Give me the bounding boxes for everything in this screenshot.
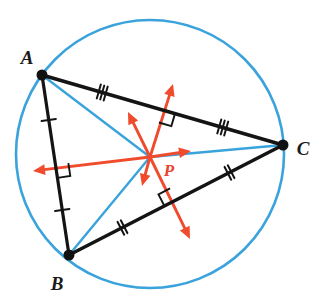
bisector-AB-ray-long-arrowhead [33, 164, 46, 175]
bisector-AB-ray-short [150, 147, 191, 158]
bisector-BC-ray-short-arrowhead [140, 173, 150, 186]
right-angle-AB [57, 163, 70, 178]
bisector-AB-ray-long [33, 157, 150, 175]
vertex-dot-B [64, 250, 75, 261]
bisector-AC-ray-long [150, 84, 175, 157]
vertex-label-B: B [50, 273, 64, 294]
geometry-figure: ABCP Circumcenter P of triangle ABC [0, 0, 331, 301]
side-AB-tick-half2-1 [55, 209, 69, 211]
side-AB [42, 75, 69, 255]
vertex-dot-A [37, 70, 48, 81]
vertex-label-A: A [20, 47, 34, 68]
geometry-canvas: ABCP [0, 0, 331, 301]
vertex-label-C: C [297, 138, 310, 159]
center-label-P: P [163, 161, 175, 180]
bisector-AC-ray-short [128, 112, 150, 157]
radius-PA [42, 75, 150, 157]
bisector-AB-ray-long-shaft [42, 157, 150, 170]
radius-PB [69, 157, 150, 255]
vertex-dot-C [278, 140, 289, 151]
bisector-AC-ray-long-arrowhead [164, 84, 174, 97]
side-AB-tick-half1-1 [42, 119, 56, 121]
side-AC [42, 75, 283, 145]
